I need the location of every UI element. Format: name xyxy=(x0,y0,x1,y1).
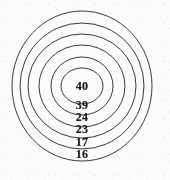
ring-label-innermost: 40 xyxy=(62,80,102,92)
concentric-circles-figure: 40 39 24 23 17 16 xyxy=(0,0,170,180)
ring-label-outermost: 16 xyxy=(62,148,102,160)
ring-label-middle-outer: 23 xyxy=(62,123,102,135)
